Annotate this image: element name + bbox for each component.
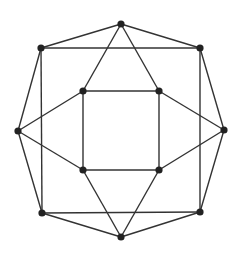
node-top [117,20,124,27]
node-inner-br [155,166,162,173]
node-left [14,127,21,134]
graph-edges [18,24,224,237]
node-right [220,126,227,133]
edge-outer-tl-outer-bl [41,48,42,213]
graph-diagram [0,0,244,256]
node-inner-bl [79,166,86,173]
node-outer-br [196,208,203,215]
node-outer-bl [38,209,45,216]
node-inner-tl [79,87,86,94]
graph-nodes [14,20,227,240]
node-inner-tr [155,87,162,94]
edge-outer-bl-outer-br [42,212,200,213]
node-outer-tr [196,44,203,51]
node-bottom [117,233,124,240]
node-outer-tl [37,44,44,51]
